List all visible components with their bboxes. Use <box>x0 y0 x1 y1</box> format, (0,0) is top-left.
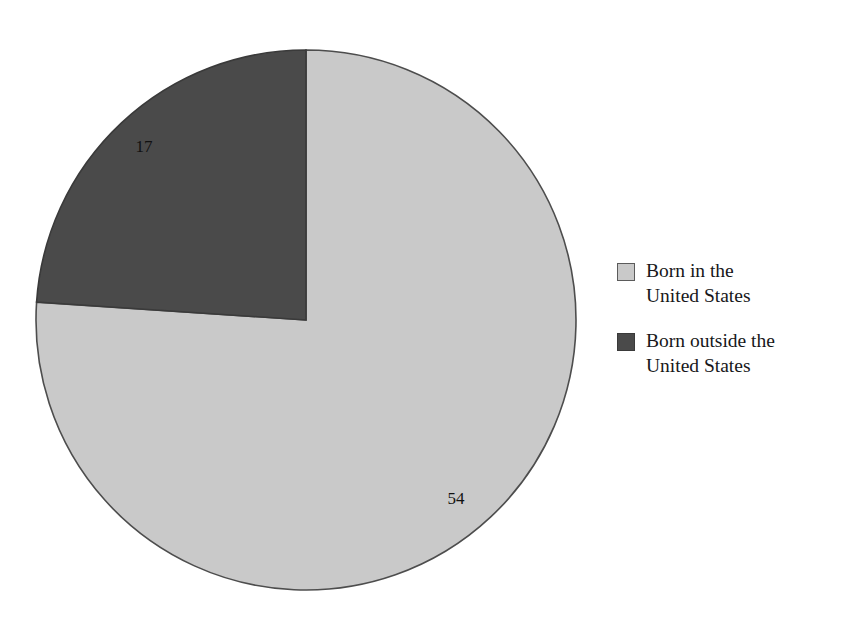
legend-label-born-in-united-states: Born in the United States <box>646 258 751 308</box>
pie-slice-value-born-outside-united-states: 17 <box>136 137 154 156</box>
legend-label-born-outside-united-states: Born outside the United States <box>646 328 775 378</box>
legend-swatch-light-icon <box>617 263 635 281</box>
pie-chart-figure: 54 17 Born in the United States Born out… <box>0 0 846 620</box>
pie-slice-born-outside-united-states[interactable] <box>37 50 306 320</box>
legend-swatch-dark-icon <box>617 333 635 351</box>
chart-legend: Born in the United States Born outside t… <box>617 258 842 398</box>
legend-item-born-in-united-states[interactable]: Born in the United States <box>617 258 842 308</box>
pie-slice-value-born-in-united-states: 54 <box>448 489 466 508</box>
legend-item-born-outside-united-states[interactable]: Born outside the United States <box>617 328 842 378</box>
